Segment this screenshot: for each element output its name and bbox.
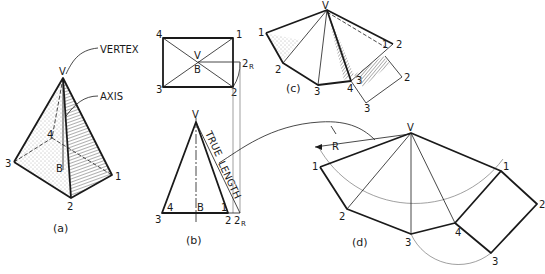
svg-text:1: 1 — [312, 161, 318, 172]
label-4: 4 — [47, 129, 53, 140]
radius-arc — [318, 146, 503, 203]
label-3: 3 — [5, 158, 11, 169]
svg-text:2: 2 — [275, 64, 281, 75]
svg-text:3: 3 — [405, 237, 411, 248]
caption-c: (c) — [286, 82, 301, 95]
svg-text:1: 1 — [236, 29, 242, 40]
svg-text:4: 4 — [347, 83, 353, 94]
svg-text:2: 2 — [404, 72, 410, 83]
svg-text:2: 2 — [396, 39, 402, 50]
view-c-partial-development: V 1 2 3 4 1 2 3 2 3 (c) — [258, 0, 410, 114]
svg-text:4: 4 — [156, 29, 162, 40]
svg-text:1: 1 — [221, 202, 227, 213]
caption-b: (b) — [186, 234, 202, 247]
svg-text:V: V — [192, 109, 199, 120]
svg-text:4: 4 — [167, 202, 173, 213]
svg-text:3: 3 — [364, 103, 370, 114]
svg-text:3: 3 — [155, 214, 161, 225]
label-v: V — [59, 66, 66, 77]
svg-text:V: V — [322, 0, 329, 11]
svg-text:2: 2 — [231, 87, 237, 98]
label-2: 2 — [67, 201, 73, 212]
view-a-pictorial: VERTEX AXIS V 4 3 B 1 2 (a) — [5, 44, 139, 235]
svg-text:1: 1 — [382, 39, 388, 50]
svg-text:2: 2 — [225, 215, 231, 226]
svg-text:V: V — [194, 50, 201, 61]
svg-text:R: R — [249, 63, 254, 71]
caption-d: (d) — [352, 236, 368, 249]
svg-text:4: 4 — [455, 227, 461, 238]
svg-text:R: R — [241, 220, 246, 228]
svg-text:2: 2 — [339, 211, 345, 222]
radius-label: R — [332, 141, 339, 152]
pyramid-development-diagram: VERTEX AXIS V 4 3 B 1 2 (a) 4 1 3 2 V B … — [0, 0, 545, 274]
svg-text:3: 3 — [356, 75, 362, 86]
svg-text:3: 3 — [156, 84, 162, 95]
svg-text:B: B — [197, 202, 204, 213]
svg-text:3: 3 — [314, 86, 320, 97]
base-arc — [411, 234, 491, 265]
svg-text:3: 3 — [492, 256, 498, 267]
label-1: 1 — [115, 171, 121, 182]
caption-a: (a) — [53, 222, 68, 235]
svg-text:1: 1 — [503, 161, 509, 172]
svg-text:B: B — [194, 64, 201, 75]
label-b: B — [56, 163, 63, 174]
vertex-callout: VERTEX — [100, 44, 139, 55]
view-d-full-development: R V 1 2 3 4 1 2 3 (d) — [312, 122, 545, 267]
axis-callout: AXIS — [100, 91, 123, 102]
svg-text:V: V — [407, 122, 414, 133]
svg-text:2: 2 — [234, 215, 240, 226]
svg-text:1: 1 — [258, 27, 264, 38]
view-b-orthographic: 4 1 3 2 V B 2 R V 4 3 B 1 2 2 R TRUE LEN… — [155, 29, 254, 247]
svg-text:2: 2 — [242, 58, 248, 69]
length-label: LENGTH — [216, 159, 243, 200]
vertex-leader — [66, 48, 98, 74]
svg-text:2: 2 — [539, 199, 545, 210]
